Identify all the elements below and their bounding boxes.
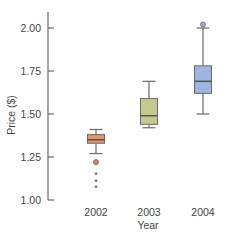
x-axis-label: Year	[137, 219, 159, 231]
y-tick-label: 1.75	[21, 65, 42, 77]
y-tick-label: 1.00	[21, 194, 42, 206]
box-2004	[195, 22, 212, 114]
box-2002: ***	[88, 129, 105, 193]
y-tick-label: 1.50	[21, 108, 42, 120]
y-tick-label: 1.25	[21, 151, 42, 163]
outlier-point	[200, 22, 205, 27]
y-tick-label: 2.00	[21, 22, 42, 34]
iqr-box	[88, 135, 105, 144]
outlier-point	[93, 160, 98, 165]
y-axis: 1.001.251.501.752.00	[21, 12, 54, 206]
far-outlier-point: *	[94, 183, 98, 193]
y-axis-label: Price ($)	[5, 95, 17, 135]
x-tick-label: 2003	[137, 206, 161, 218]
x-tick-label: 2004	[191, 206, 215, 218]
iqr-box	[195, 66, 212, 94]
x-axis: 200220032004	[84, 206, 215, 218]
iqr-box	[141, 99, 158, 125]
box-2003	[141, 81, 158, 127]
box-plot-chart: 1.001.251.501.752.00 *** 200220032004 Pr…	[0, 0, 225, 240]
x-tick-label: 2002	[84, 206, 108, 218]
box-group: ***	[88, 22, 212, 194]
